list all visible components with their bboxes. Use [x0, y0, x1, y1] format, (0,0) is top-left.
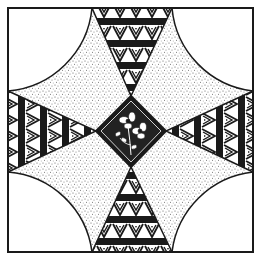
- quilt-block-illustration: [0, 0, 265, 262]
